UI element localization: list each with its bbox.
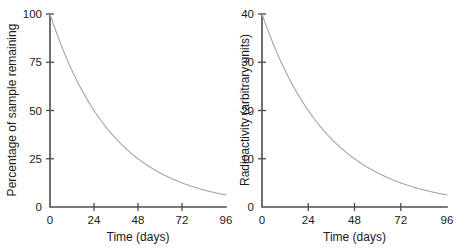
x-tick-label: 0 [47,214,53,226]
y-tick-label: 25 [29,153,42,165]
axis-lines [262,14,447,207]
y-tick-label: 40 [241,8,254,20]
x-tick-label: 0 [259,214,265,226]
y-axis-title: Radioactivity (arbitrary units) [238,34,252,186]
y-tick-label: 0 [36,201,42,213]
chart-panel-percentage: 0255075100024487296Time (days)Percentage… [0,0,235,250]
percentage-remaining-chart: 0255075100024487296Time (days)Percentage… [0,0,235,250]
radioactivity-chart: 010203040024487296Time (days)Radioactivi… [235,0,470,250]
x-axis-title: Time (days) [107,230,170,244]
y-tick-label: 100 [23,8,42,20]
x-tick-label: 72 [176,214,189,226]
x-tick-label: 24 [302,214,315,226]
x-axis-title: Time (days) [323,230,386,244]
x-tick-label: 72 [394,214,407,226]
x-tick-label: 96 [441,214,454,226]
y-tick-label: 0 [248,201,254,213]
decay-curve [50,14,226,195]
axis-lines [50,14,226,207]
x-tick-label: 48 [132,214,145,226]
decay-figure: 0255075100024487296Time (days)Percentage… [0,0,470,250]
chart-panel-radioactivity: 010203040024487296Time (days)Radioactivi… [235,0,470,250]
x-tick-label: 48 [348,214,361,226]
y-tick-label: 50 [29,105,42,117]
x-tick-label: 24 [88,214,101,226]
y-tick-label: 75 [29,56,42,68]
x-tick-label: 96 [220,214,233,226]
decay-curve [262,14,447,195]
y-axis-title: Percentage of sample remaining [5,24,19,197]
